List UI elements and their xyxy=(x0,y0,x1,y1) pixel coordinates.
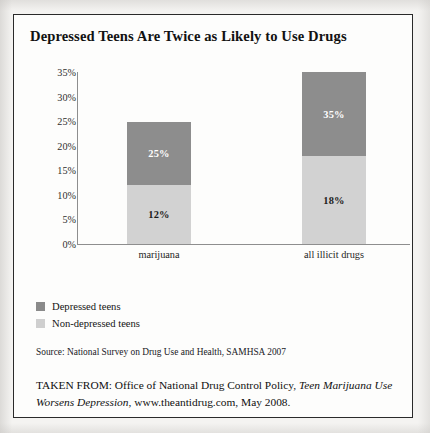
bar-label-nondepressed-all-illicit: 18% xyxy=(302,194,366,205)
x-axis-line xyxy=(77,244,410,245)
bar-segment-depressed-marijuana[interactable]: 25% xyxy=(127,122,191,185)
y-tick-5: 5% xyxy=(36,214,76,225)
bar-marijuana[interactable]: 25% 12% xyxy=(127,122,191,244)
bar-segment-depressed-all-illicit[interactable]: 35% xyxy=(302,72,366,156)
y-tick-10: 10% xyxy=(36,189,76,200)
legend-label-depressed-teens: Depressed teens xyxy=(52,301,121,312)
y-tick-25: 25% xyxy=(36,116,76,127)
page-background: Depressed Teens Are Twice as Likely to U… xyxy=(0,0,430,433)
chart-title: Depressed Teens Are Twice as Likely to U… xyxy=(30,28,400,45)
legend-label-non-depressed-teens: Non-depressed teens xyxy=(52,318,140,329)
light-swatch-icon xyxy=(36,319,45,328)
bar-label-depressed-all-illicit: 35% xyxy=(302,108,366,119)
y-tick-35: 35% xyxy=(36,67,76,78)
dark-swatch-icon xyxy=(36,302,45,311)
bar-label-depressed-marijuana: 25% xyxy=(127,148,191,159)
legend-item-non-depressed-teens: Non-depressed teens xyxy=(36,316,140,330)
bar-segment-nondepressed-all-illicit[interactable]: 18% xyxy=(302,156,366,244)
y-tick-20: 20% xyxy=(36,140,76,151)
attribution-lead: TAKEN FROM: Office of National Drug Cont… xyxy=(36,379,299,391)
bar-label-nondepressed-marijuana: 12% xyxy=(127,209,191,220)
bar-segment-nondepressed-marijuana[interactable]: 12% xyxy=(127,185,191,244)
y-tick-0: 0% xyxy=(36,238,76,249)
y-tick-30: 30% xyxy=(36,91,76,102)
figure-frame: Depressed Teens Are Twice as Likely to U… xyxy=(13,14,413,418)
y-axis-line xyxy=(77,72,78,244)
attribution-tail: , www.theantidrug.com, May 2008. xyxy=(129,396,291,408)
x-tick-marijuana: marijuana xyxy=(89,249,229,260)
chart-source-note: Source: National Survey on Drug Use and … xyxy=(36,347,286,357)
chart-legend: Depressed teens Non-depressed teens xyxy=(36,299,140,333)
x-tick-all-illicit-drugs: all illicit drugs xyxy=(264,249,404,260)
bar-all-illicit-drugs[interactable]: 35% 18% xyxy=(302,72,366,244)
chart-plot-area: 35% 30% 25% 20% 15% 10% 5% 0% 25% 12% 35… xyxy=(22,59,410,274)
y-tick-15: 15% xyxy=(36,165,76,176)
legend-item-depressed-teens: Depressed teens xyxy=(36,299,140,313)
attribution-note: TAKEN FROM: Office of National Drug Cont… xyxy=(36,377,398,411)
